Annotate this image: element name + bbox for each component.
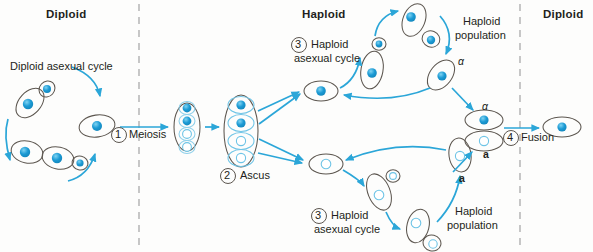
mating-type-a-lower: a xyxy=(459,173,465,185)
nucleus-meiotic-2 xyxy=(183,117,192,126)
arrow-ascospore-1-release xyxy=(258,92,299,111)
arrow-ascospore-2-release xyxy=(259,94,300,124)
caption-haploid-population-top-1: Haploid xyxy=(463,15,500,27)
nucleus-haploid-top-pair-a xyxy=(406,12,416,22)
nucleus-ascospore-4 xyxy=(236,153,245,162)
step-3-bottom-label-2: asexual cycle xyxy=(314,223,380,235)
mating-type-a-fusion: a xyxy=(483,149,489,161)
arrow-haploid-top-return xyxy=(344,88,430,98)
step-2-label: Ascus xyxy=(240,169,270,181)
arrow-ascospore-3-release xyxy=(259,139,303,160)
nucleus-ascospore-2 xyxy=(236,118,245,127)
nucleus-haploid-top-alpha xyxy=(437,71,446,80)
nucleus-haploid-bot-hub xyxy=(321,159,331,169)
nucleus-diploid-bottom xyxy=(20,147,30,157)
nucleus-haploid-top-bud xyxy=(376,41,383,48)
step-3-bottom-label-1: Haploid xyxy=(331,209,368,221)
nucleus-meiotic-3 xyxy=(183,130,192,139)
arrow-alpha-to-fusion xyxy=(452,88,473,110)
arrow-haploid-top-3 xyxy=(440,16,449,54)
step-3-top-label-1: Haploid xyxy=(311,38,348,50)
nucleus-haploid-top-budding xyxy=(367,68,377,78)
nucleus-haploid-bot-budding xyxy=(374,190,384,200)
arrow-haploid-bot-2 xyxy=(386,212,400,229)
nucleus-diploid-bud-top xyxy=(43,85,51,93)
arrow-ascospore-4-release xyxy=(258,153,302,163)
nucleus-haploid-top-pair-b xyxy=(427,36,435,44)
nucleus-haploid-bot-pair-b xyxy=(429,240,437,248)
arrow-haploid-bot-1 xyxy=(343,170,364,186)
step-4-label: Fusion xyxy=(521,131,554,143)
step-2-number: 2 xyxy=(224,169,230,181)
nucleus-haploid-bot-a xyxy=(455,151,464,160)
nucleus-haploid-bot-pair-a xyxy=(411,218,421,228)
caption-diploid-asexual-cycle: Diploid asexual cycle xyxy=(10,60,113,72)
nucleus-haploid-bot-bud xyxy=(390,173,397,180)
step-3-top-number: 3 xyxy=(295,38,301,50)
arrow-haploid-bot-return xyxy=(346,147,446,160)
step-3-bottom-number: 3 xyxy=(315,209,321,221)
nucleus-meiotic-1 xyxy=(183,104,192,113)
mating-type-alpha-upper: α xyxy=(458,56,464,68)
arrow-diploid-cycle-left xyxy=(6,119,10,160)
caption-haploid-population-bottom-1: Haploid xyxy=(455,205,492,217)
header-haploid: Haploid xyxy=(302,8,346,21)
nucleus-ascospore-1 xyxy=(236,100,245,109)
yeast-life-cycle-figure: Diploid Haploid Diploid Diploid asexual … xyxy=(0,0,593,252)
nucleus-fusion-alpha xyxy=(479,115,488,124)
nucleus-diploid-right xyxy=(92,121,102,131)
step-4-number: 4 xyxy=(507,131,513,143)
nucleus-diploid-bottom-2 xyxy=(52,153,62,163)
nucleus-meiotic-4 xyxy=(183,143,192,152)
arrow-diploid-cycle-bottom xyxy=(68,154,95,181)
header-diploid-right: Diploid xyxy=(543,8,583,21)
nucleus-fusion-a xyxy=(479,136,488,145)
arrow-haploid-top-2 xyxy=(375,11,398,36)
nucleus-zygote xyxy=(557,122,566,131)
caption-haploid-population-bottom-2: population xyxy=(447,219,498,231)
step-1-number: 1 xyxy=(115,128,121,140)
flow-arrows xyxy=(6,11,539,229)
caption-haploid-population-top-2: population xyxy=(455,29,506,41)
nucleus-diploid-bud-bottom xyxy=(76,159,83,166)
header-diploid-left: Diploid xyxy=(46,8,86,21)
step-1-label: Meiosis xyxy=(129,128,166,140)
nucleus-diploid-top xyxy=(23,99,33,109)
mating-type-alpha-fusion: α xyxy=(482,101,488,113)
nucleus-haploid-top-hub xyxy=(316,86,326,96)
nucleus-ascospore-3 xyxy=(236,136,245,145)
step-3-top-label-2: asexual cycle xyxy=(294,52,360,64)
